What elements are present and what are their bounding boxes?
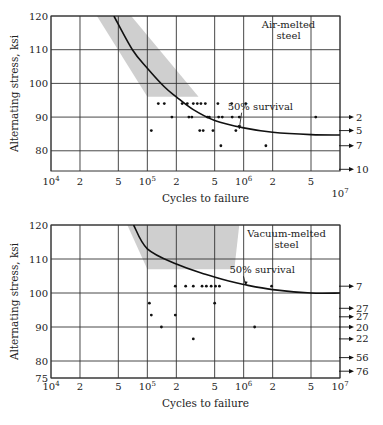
x-tick-base: 5 [115, 176, 121, 187]
runout-count: 7 [356, 140, 362, 151]
data-point [231, 116, 234, 119]
data-point [198, 129, 201, 132]
runout-count: 5 [356, 125, 362, 136]
data-point [192, 338, 195, 341]
x-tick-label: 5 [115, 381, 121, 392]
runout-count: 2 [356, 112, 362, 123]
x-axis-label: Cycles to failure [162, 192, 249, 204]
runout-arrowhead [349, 337, 354, 341]
data-point [202, 129, 205, 132]
data-point [264, 144, 267, 147]
x-tick-base: 2 [77, 176, 83, 187]
y-tick-label: 90 [35, 112, 48, 123]
x-tick-label: 5 [308, 381, 314, 392]
y-axis-label: Alternating stress, ksi [8, 34, 20, 153]
data-point [234, 129, 237, 132]
data-point [214, 285, 217, 288]
curve-annotation: 50% survival [230, 264, 295, 275]
x-tick-base: 10 [331, 188, 344, 199]
y-tick-label: 100 [29, 288, 48, 299]
runout-arrowhead [349, 325, 354, 329]
y-tick-label: 80 [35, 145, 48, 156]
data-point [270, 285, 273, 288]
x-tick-base: 5 [308, 381, 314, 392]
x-tick-label: 105 [139, 175, 156, 187]
data-point [160, 326, 163, 329]
runouts: 25710 [339, 112, 369, 175]
data-point [204, 102, 207, 105]
x-tick-label: 2 [173, 381, 179, 392]
runout-count: 7 [356, 281, 362, 292]
data-point [217, 116, 220, 119]
x-tick-label: 107 [331, 187, 348, 199]
sn-curves-figure: 1042510525106251078090100110120Cycles to… [0, 0, 383, 425]
panel-label-line: steel [274, 239, 298, 250]
panel-label-line: steel [276, 30, 300, 41]
x-tick-exponent: 4 [55, 175, 60, 183]
x-tick-base: 10 [139, 176, 152, 187]
x-tick-label: 2 [77, 381, 83, 392]
data-point [187, 116, 190, 119]
runout-count: 76 [356, 366, 369, 377]
data-point [212, 129, 215, 132]
data-point [200, 102, 203, 105]
data-point [192, 285, 195, 288]
x-tick-exponent: 7 [344, 187, 348, 195]
x-tick-exponent: 4 [55, 380, 60, 388]
runout-count: 10 [356, 164, 369, 175]
y-tick-label: 80 [35, 356, 48, 367]
x-tick-exponent: 6 [248, 380, 253, 388]
data-point [150, 314, 153, 317]
data-point [186, 102, 189, 105]
y-tick-label: 110 [29, 44, 48, 55]
x-tick-label: 5 [211, 176, 217, 187]
x-tick-exponent: 7 [344, 380, 348, 388]
x-tick-base: 2 [173, 381, 179, 392]
x-tick-label: 2 [173, 176, 179, 187]
data-point [218, 285, 221, 288]
x-tick-exponent: 6 [248, 175, 253, 183]
x-tick-base: 5 [211, 176, 217, 187]
runout-arrowhead [349, 284, 354, 288]
x-tick-base: 2 [269, 176, 275, 187]
x-tick-label: 5 [211, 381, 217, 392]
data-point [192, 102, 195, 105]
data-point [201, 285, 204, 288]
data-point [174, 285, 177, 288]
x-tick-base: 10 [42, 176, 55, 187]
y-tick-label: 90 [35, 322, 48, 333]
data-point [157, 102, 160, 105]
y-axis-label: Alternating stress, ksi [8, 242, 20, 361]
x-tick-base: 5 [211, 381, 217, 392]
x-tick-label: 2 [77, 176, 83, 187]
panel-label-line: Air-melted [261, 19, 316, 30]
data-point [205, 285, 208, 288]
x-tick-base: 5 [115, 381, 121, 392]
y-tick-label: 110 [29, 254, 48, 265]
data-point [219, 144, 222, 147]
x-tick-label: 2 [269, 176, 275, 187]
y-tick-label: 100 [29, 78, 48, 89]
runout-arrowhead [349, 167, 354, 171]
data-point [314, 116, 317, 119]
x-axis-label: Cycles to failure [162, 397, 249, 409]
data-point [208, 116, 211, 119]
x-tick-base: 2 [173, 176, 179, 187]
x-tick-label: 106 [235, 175, 253, 187]
runout-arrowhead [349, 369, 354, 373]
scatter-band [127, 225, 239, 269]
data-point [253, 326, 256, 329]
y-tick-label: 120 [29, 220, 48, 231]
runouts: 7272720225676 [339, 281, 369, 377]
x-tick-base: 2 [77, 381, 83, 392]
vacuum-melted-steel-chart: 104251052510625107758090100110120Cycles … [8, 220, 369, 410]
data-point [190, 116, 193, 119]
data-point [181, 102, 184, 105]
x-tick-base: 10 [331, 381, 344, 392]
panel-label-line: Vacuum-melted [246, 228, 326, 239]
x-tick-base: 10 [235, 381, 248, 392]
data-point [210, 285, 213, 288]
x-tick-label: 107 [331, 380, 348, 392]
runout-arrowhead [349, 128, 354, 132]
curve-annotation: 50% survival [228, 101, 293, 112]
